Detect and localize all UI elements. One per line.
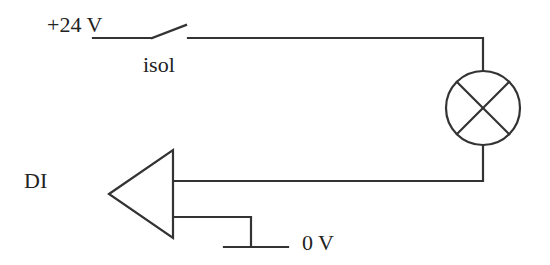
lamp-icon [446,71,520,145]
return-wire [174,145,483,181]
digital-input-icon [109,150,173,238]
switch-label: isol [143,54,175,76]
top-wire [188,38,483,70]
circuit-diagram [0,0,550,265]
switch-lever [152,25,186,38]
input-label: DI [24,170,47,192]
ground-wire [174,217,251,247]
supply-label: +24 V [47,14,102,36]
ground-label: 0 V [302,232,334,254]
